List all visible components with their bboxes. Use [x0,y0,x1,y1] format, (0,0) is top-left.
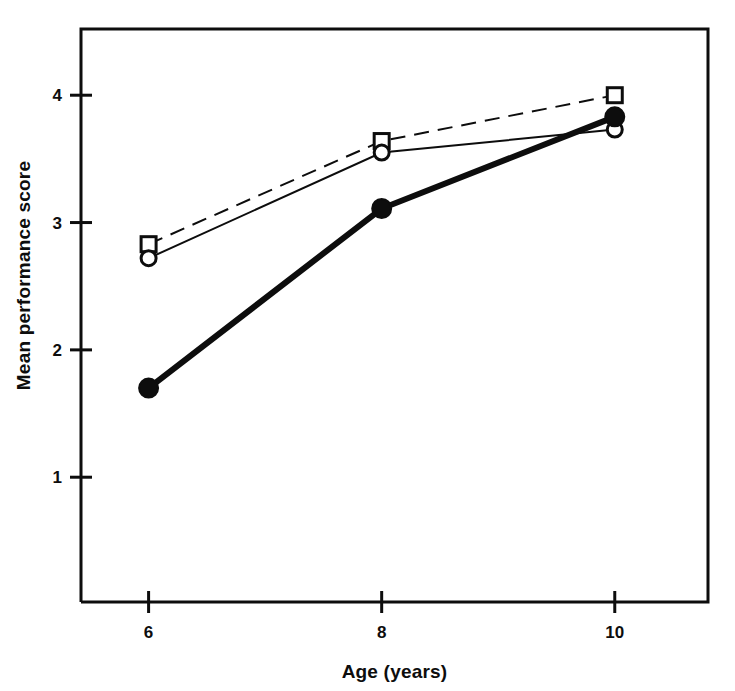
marker-filled-circle [605,107,624,126]
line-chart: 1234 6810 Age (years)Mean performance sc… [0,0,735,691]
x-tick-label: 10 [605,623,624,642]
figure-container: 1234 6810 Age (years)Mean performance sc… [0,0,735,691]
x-tick-label: 6 [144,623,153,642]
marker-open-circle [141,251,156,266]
y-tick-label: 4 [53,86,63,105]
x-tick-label: 8 [377,623,386,642]
x-axis-title: Age (years) [342,661,448,682]
y-axis-title: Mean performance score [13,161,34,390]
marker-open-circle [374,145,389,160]
marker-open-square [607,88,622,103]
chart-background [0,0,735,691]
y-tick-label: 1 [53,468,62,487]
marker-filled-circle [372,199,391,218]
y-tick-label: 3 [53,214,62,233]
marker-filled-circle [139,379,158,398]
y-tick-label: 2 [53,341,62,360]
